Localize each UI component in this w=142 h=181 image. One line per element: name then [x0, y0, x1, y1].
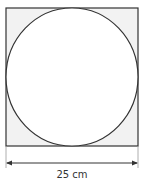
arrow-left-icon	[6, 161, 12, 166]
diagram-canvas: 25 cm	[0, 0, 142, 181]
inscribed-circle	[6, 8, 138, 146]
arrow-right-icon	[132, 161, 138, 166]
square-with-inscribed-circle	[6, 8, 138, 146]
dimension-line	[6, 146, 138, 168]
dimension-label: 25 cm	[56, 169, 87, 180]
